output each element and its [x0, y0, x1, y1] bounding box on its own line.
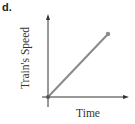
x-axis-label: Time: [76, 107, 100, 119]
end-point: [106, 32, 110, 36]
origin-point: [46, 95, 50, 99]
x-axis-arrow-icon: [123, 95, 129, 99]
speed-line: [48, 34, 108, 97]
y-axis-label: Train's Speed: [19, 27, 31, 89]
y-axis-arrow-icon: [46, 14, 50, 20]
